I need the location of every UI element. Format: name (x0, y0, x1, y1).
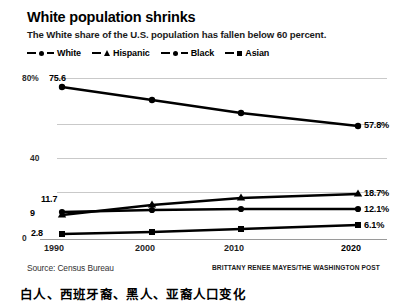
chart-figure: White population shrinks The White share… (0, 0, 397, 305)
x-tick-2020: 2020 (341, 243, 361, 253)
bottom-series-lines (0, 0, 397, 305)
caption-text: 白人、西班牙裔、黑人、亚裔人口变化 (20, 284, 246, 303)
datalabel-black-1990: 11.7 (41, 194, 57, 204)
datalabel-asian-1990: 2.8 (31, 228, 43, 238)
x-tick-2000: 2000 (135, 243, 155, 253)
datalabel-hispanic-2020: 18.7% (364, 188, 389, 198)
x-tick-1990: 1990 (44, 243, 64, 253)
credit-text: BRITTANY RENEE MAYES/THE WASHINGTON POST (212, 264, 380, 271)
datalabel-black-2020: 12.1% (364, 204, 389, 214)
source-text: Source: Census Bureau (27, 263, 114, 273)
x-tick-2010: 2010 (224, 243, 244, 253)
datalabel-hispanic-1990: 9 (30, 208, 35, 218)
datalabel-asian-2020: 6.1% (364, 220, 384, 230)
